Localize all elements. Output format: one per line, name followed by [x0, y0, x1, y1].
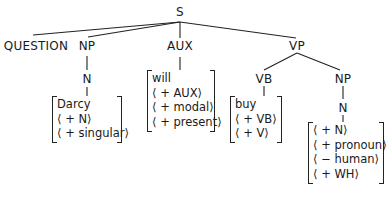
- feature-row: ⟨ + VB⟩: [235, 112, 276, 127]
- feature-row: ⟨ + V⟩: [235, 126, 276, 141]
- left-bracket: [52, 96, 57, 143]
- left-bracket: [230, 96, 235, 143]
- node-np-subject: NP: [79, 39, 96, 53]
- node-s: S: [176, 5, 184, 19]
- left-bracket: [308, 122, 313, 184]
- node-n-object: N: [338, 101, 347, 115]
- feature-row: ⟨ + WH⟩: [313, 167, 378, 182]
- right-bracket: [117, 96, 122, 143]
- feature-row: ⟨ + present⟩: [152, 115, 209, 130]
- feature-row: ⟨ + singular⟩: [57, 126, 116, 141]
- right-bracket: [379, 122, 384, 184]
- left-bracket: [147, 70, 152, 132]
- edge-s-question: [33, 22, 180, 35]
- feature-row: ⟨ + modal⟩: [152, 100, 209, 115]
- feature-row: ⟨ − human⟩: [313, 152, 378, 167]
- feature-row: ⟨ + AUX⟩: [152, 86, 209, 101]
- feature-matrix-darcy: Darcy ⟨ + N⟩ ⟨ + singular⟩: [52, 96, 122, 143]
- node-vp: VP: [289, 39, 305, 53]
- feature-row: ⟨ + pronoun⟩: [313, 138, 378, 153]
- feature-row: ⟨ + N⟩: [57, 112, 116, 127]
- feature-matrix-will: will ⟨ + AUX⟩ ⟨ + modal⟩ ⟨ + present⟩: [147, 70, 215, 132]
- feature-row: will: [152, 71, 209, 86]
- syntax-tree: S QUESTION NP AUX VP N VB NP N Darcy ⟨ +…: [0, 0, 390, 207]
- feature-matrix-buy: buy ⟨ + VB⟩ ⟨ + V⟩: [230, 96, 282, 143]
- right-bracket: [210, 70, 215, 132]
- feature-row: Darcy: [57, 97, 116, 112]
- edge-vp-np: [297, 53, 340, 70]
- node-np-object: NP: [335, 72, 352, 86]
- feature-matrix-wh-pronoun: ⟨ + N⟩ ⟨ + pronoun⟩ ⟨ − human⟩ ⟨ + WH⟩: [308, 122, 384, 184]
- edge-s-vp: [180, 22, 296, 38]
- feature-row: ⟨ + N⟩: [313, 123, 378, 138]
- node-aux: AUX: [167, 39, 193, 53]
- edge-s-np: [88, 22, 180, 37]
- right-bracket: [277, 96, 282, 143]
- feature-row: buy: [235, 97, 276, 112]
- node-vb: VB: [256, 72, 273, 86]
- edge-vp-vb: [264, 53, 297, 70]
- node-question: QUESTION: [4, 39, 68, 53]
- node-n-subject: N: [82, 72, 91, 86]
